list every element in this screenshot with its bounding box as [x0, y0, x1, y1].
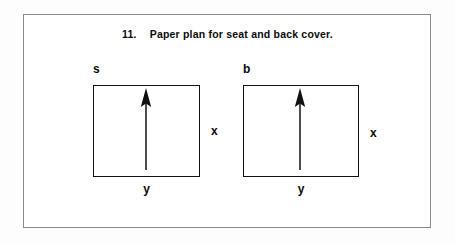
panel-back-rectangle: [243, 85, 359, 177]
panel-seat-rectangle: [93, 85, 200, 177]
panel-back-side-label: x: [370, 126, 377, 140]
figure-root: 11.Paper plan for seat and back cover. s…: [0, 0, 455, 243]
figure-caption-number: 11.: [122, 28, 137, 40]
figure-caption: 11.Paper plan for seat and back cover.: [0, 28, 455, 40]
panel-seat-bottom-label: y: [93, 182, 200, 196]
panel-back-bottom-label: y: [243, 182, 359, 196]
figure-caption-text: Paper plan for seat and back cover.: [150, 28, 333, 40]
figure-border-frame: [23, 14, 431, 228]
panel-seat-side-label: x: [211, 124, 218, 138]
